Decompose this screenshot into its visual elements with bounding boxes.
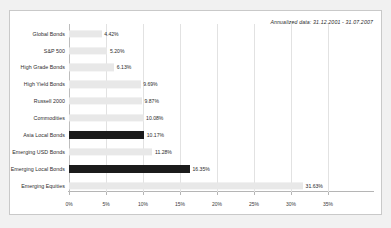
x-axis-tick-label: 30% — [286, 201, 296, 207]
x-axis-tick-label: 20% — [212, 201, 222, 207]
bar — [69, 182, 303, 189]
bar-row: Asia Local Bonds10.17% — [10, 126, 383, 143]
bar — [69, 115, 144, 122]
category-label: Emerging USD Bonds — [10, 149, 65, 155]
category-label: S&P 500 — [10, 48, 65, 54]
category-label: Asia Local Bonds — [10, 132, 65, 138]
category-label: Commodities — [10, 115, 65, 121]
x-axis-tick-label: 5% — [102, 201, 109, 207]
category-label: Russell 2000 — [10, 98, 65, 104]
bar-row: High Grade Bonds6.13% — [10, 59, 383, 76]
bar-row: Emerging USD Bonds11.28% — [10, 143, 383, 160]
bar-row: Emerging Equities31.63% — [10, 177, 383, 194]
bar-row: Russell 20009.87% — [10, 93, 383, 110]
category-label: Global Bonds — [10, 31, 65, 37]
bar-highlighted — [69, 165, 190, 173]
category-label: Emerging Equities — [10, 183, 65, 189]
bar — [69, 64, 114, 71]
bar-value-label: 9.69% — [143, 81, 157, 87]
bar-row: Emerging Local Bonds16.35% — [10, 160, 383, 177]
category-label: Emerging Local Bonds — [10, 166, 65, 172]
category-label: High Grade Bonds — [10, 64, 65, 70]
x-axis-tick-label: 35% — [323, 201, 333, 207]
x-axis-tick-label: 25% — [249, 201, 259, 207]
x-axis-tick-label: 10% — [138, 201, 148, 207]
bar-value-label: 10.08% — [146, 115, 163, 121]
bar-row: Commodities10.08% — [10, 110, 383, 127]
bar-value-label: 5.20% — [110, 48, 124, 54]
bar-value-label: 10.17% — [147, 132, 164, 138]
category-label: High Yield Bonds — [10, 81, 65, 87]
bar-value-label: 11.28% — [155, 149, 172, 155]
bar — [69, 148, 152, 155]
bar-value-label: 4.42% — [104, 31, 118, 37]
bar-row: High Yield Bonds9.69% — [10, 76, 383, 93]
bar-row: Global Bonds4.42% — [10, 25, 383, 42]
bar — [69, 30, 102, 37]
bar — [69, 98, 142, 105]
bar-highlighted — [69, 131, 144, 139]
bar — [69, 81, 141, 88]
x-axis-tick-label: 15% — [175, 201, 185, 207]
plot-area: 0%5%10%15%20%25%30%35% Global Bonds4.42%… — [10, 11, 383, 216]
bar-value-label: 16.35% — [192, 166, 209, 172]
bar-value-label: 9.87% — [145, 98, 159, 104]
chart-panel: Annualized data: 31.12.2001 - 31.07.2007… — [9, 10, 382, 215]
x-axis-tick-label: 0% — [65, 201, 72, 207]
bar-row: S&P 5005.20% — [10, 42, 383, 59]
bar-value-label: 31.63% — [306, 183, 323, 189]
bar-value-label: 6.13% — [117, 64, 131, 70]
bar — [69, 47, 107, 54]
